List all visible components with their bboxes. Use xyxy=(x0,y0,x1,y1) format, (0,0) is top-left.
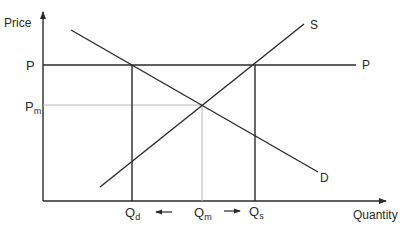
demand-curve xyxy=(71,30,318,172)
supply-curve-label: S xyxy=(310,18,318,32)
quantity-demanded-label: Qd xyxy=(125,205,140,222)
price-level-label: P xyxy=(26,58,35,73)
y-axis-label: Price xyxy=(4,16,32,30)
x-axis-label: Quantity xyxy=(353,208,398,222)
price-line-label: P xyxy=(362,58,370,72)
market-quantity-label: Qm xyxy=(194,205,212,222)
quantity-supplied-label: Qs xyxy=(249,204,264,221)
demand-curve-label: D xyxy=(320,171,329,185)
supply-demand-diagram: Price Quantity P Pm Qd Qm Qs S D P xyxy=(0,0,406,228)
market-price-label: Pm xyxy=(25,99,41,116)
